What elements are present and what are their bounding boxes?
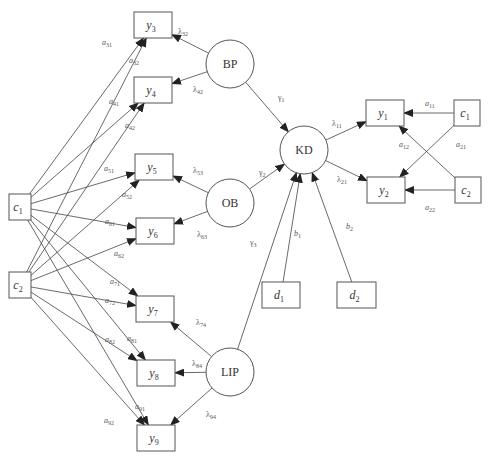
node-label: LIP (221, 365, 239, 379)
observed-node-y5: y5 (135, 154, 173, 180)
edge-d1-to-KD (283, 174, 300, 282)
edge-c2L-to-y9 (31, 297, 144, 425)
edge-label-a62: a62 (114, 249, 124, 259)
edge-c2L-to-y8 (31, 292, 137, 361)
edge-label-a32: a32 (129, 56, 139, 66)
edge-label-λ63: λ63 (197, 230, 207, 240)
edge-label-λ21: λ21 (337, 175, 347, 185)
edge-label-a22: a22 (425, 203, 435, 213)
edge-c1L-to-y3 (30, 38, 144, 194)
edge-c1L-to-y5 (31, 173, 135, 204)
node-label: OB (222, 196, 239, 210)
edge-label-γ2: γ2 (258, 168, 266, 178)
edge-label-a72: a72 (105, 296, 115, 306)
edge-label-λ84: λ84 (192, 359, 202, 369)
edge-label-γ3: γ3 (249, 238, 257, 248)
observed-node-c2L: c2 (9, 272, 31, 298)
edge-c1L-to-y4 (31, 103, 138, 197)
edge-BP-to-KD (246, 82, 289, 132)
latent-node-OB: OB (206, 179, 254, 227)
observed-node-c1L: c1 (9, 194, 31, 220)
latent-node-LIP: LIP (206, 348, 254, 396)
edge-BP-to-y3 (172, 35, 209, 54)
observed-node-y8: y8 (137, 360, 175, 386)
edge-label-a91: a91 (135, 402, 145, 412)
edge-label-b2: b2 (346, 222, 353, 232)
edge-label-b1: b1 (294, 229, 301, 239)
edge-label-a82: a82 (105, 335, 115, 345)
edge-label-λ74: λ74 (196, 318, 206, 328)
edge-c1L-to-y9 (28, 220, 149, 425)
observed-node-c1R: c1 (454, 100, 480, 126)
edge-label-a51: a51 (104, 164, 114, 174)
edge-label-λ53: λ53 (193, 166, 203, 176)
edge-label-λ11: λ11 (332, 119, 342, 129)
node-label: KD (295, 143, 313, 157)
nodes-layer: y3y4y5y6y7y8y9y1y2c1c2c1c2d1d2BPOBLIPKD (9, 12, 481, 451)
edge-label-a11: a11 (425, 99, 435, 109)
edge-OB-to-y6 (174, 211, 208, 224)
edge-OB-to-KD (250, 164, 285, 189)
observed-node-y3: y3 (134, 12, 172, 38)
edge-label-a61: a61 (105, 217, 115, 227)
edge-label-a92: a92 (104, 416, 114, 426)
sem-path-diagram: y3y4y5y6y7y8y9y1y2c1c2c1c2d1d2BPOBLIPKD … (0, 0, 490, 459)
latent-node-KD: KD (280, 126, 328, 174)
observed-node-y7: y7 (136, 296, 174, 322)
latent-node-BP: BP (206, 40, 254, 88)
edge-label-a41: a41 (109, 97, 119, 107)
observed-node-d1: d1 (262, 282, 300, 308)
observed-node-y1: y1 (366, 100, 404, 126)
edge-c2L-to-y6 (31, 239, 136, 281)
edge-label-a21: a21 (456, 140, 466, 150)
edge-OB-to-y5 (173, 176, 208, 193)
edge-label-λ32: λ32 (178, 27, 188, 37)
edge-label-a42: a42 (125, 121, 135, 131)
observed-node-y2: y2 (367, 177, 405, 203)
edge-KD-to-y2 (326, 161, 367, 181)
observed-node-y6: y6 (136, 218, 174, 244)
edge-label-a31: a31 (102, 38, 112, 48)
edge-BP-to-y4 (172, 72, 207, 84)
edge-label-a52: a52 (122, 190, 132, 200)
edge-label-λ94: λ94 (206, 410, 216, 420)
edge-label-a12: a12 (399, 140, 409, 150)
edge-c1L-to-y6 (31, 209, 136, 228)
edge-label-a81: a81 (127, 334, 137, 344)
edge-label-γ1: γ1 (277, 93, 285, 103)
edge-label-λ42: λ42 (193, 85, 203, 95)
observed-node-d2: d2 (337, 282, 376, 308)
edge-c2L-to-y7 (31, 287, 136, 306)
observed-node-y4: y4 (134, 77, 172, 103)
observed-node-y9: y9 (137, 425, 175, 451)
observed-node-c2R: c2 (455, 177, 481, 203)
node-label: BP (223, 57, 238, 71)
edge-LIP-to-y9 (171, 388, 213, 425)
